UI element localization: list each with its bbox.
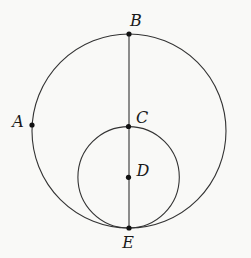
point-label-A: A <box>10 112 24 131</box>
figure-svg: BACDE <box>0 0 251 258</box>
point-dot-A <box>29 122 34 127</box>
point-label-C: C <box>136 108 148 127</box>
point-dot-D <box>126 175 131 180</box>
point-label-E: E <box>121 233 134 252</box>
point-dot-E <box>126 225 131 230</box>
point-dot-C <box>126 124 131 129</box>
point-label-B: B <box>129 11 142 30</box>
geometry-figure: BACDE <box>0 0 251 258</box>
point-dot-B <box>126 31 131 36</box>
point-label-D: D <box>136 161 150 180</box>
